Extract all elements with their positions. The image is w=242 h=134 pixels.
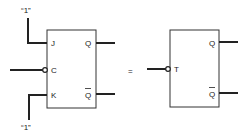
jk-to-t-flipflop-diagram: “1” J C K “1” Q Q = T Q Q xyxy=(0,0,242,134)
t-qbar-label: Q xyxy=(209,90,215,99)
t-q-label: Q xyxy=(209,39,215,48)
c-inversion-bubble xyxy=(43,68,48,73)
t-flipflop: T Q Q xyxy=(147,30,238,107)
t-label: T xyxy=(174,65,179,74)
j-input-wire xyxy=(28,18,47,43)
c-label: C xyxy=(51,66,57,75)
jk-flipflop: “1” J C K “1” Q Q xyxy=(10,6,115,132)
k-tie-label: “1” xyxy=(21,123,31,132)
t-inversion-bubble xyxy=(166,67,171,72)
k-label: K xyxy=(51,91,57,100)
k-input-wire xyxy=(29,95,47,120)
j-tie-label: “1” xyxy=(21,6,31,15)
equals-sign: = xyxy=(128,67,133,76)
jk-q-label: Q xyxy=(85,39,91,48)
jk-qbar-label: Q xyxy=(85,91,91,100)
j-label: J xyxy=(51,39,55,48)
